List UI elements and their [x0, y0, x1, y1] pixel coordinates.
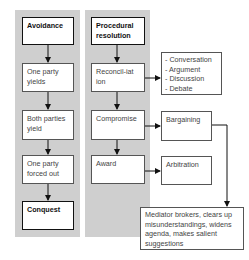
both-parties-yield-box: Both parties yield — [22, 110, 74, 140]
avoidance-header-label: Avoidance — [27, 21, 63, 30]
award-box: Award — [91, 155, 145, 184]
one-party-yields-box: One party yields — [22, 63, 74, 92]
reconciliation-box: Reconcil-iation — [91, 63, 145, 92]
bargaining-box: Bargaining — [161, 111, 212, 141]
compromise-label: Compromise — [96, 114, 137, 123]
conquest-label: Conquest — [27, 205, 60, 214]
both-parties-yield-label: Both parties yield — [27, 114, 65, 133]
arbitration-box: Arbitration — [161, 156, 212, 185]
one-party-forced-out-label: One party forced out — [27, 159, 59, 178]
procedural-resolution-header-label: Procedural resolution — [96, 21, 134, 40]
arrow-bargaining-to-mediator — [211, 125, 227, 206]
award-label: Award — [96, 159, 116, 168]
form-item: - Conversation — [165, 55, 218, 65]
bargaining-label: Bargaining — [166, 115, 200, 124]
avoidance-header-box: Avoidance — [22, 17, 74, 45]
conquest-box: Conquest — [22, 201, 74, 230]
mediator-note: Mediator brokers, clears up misunderstan… — [145, 210, 232, 248]
form-item: - Discussion — [165, 74, 218, 84]
arbitration-label: Arbitration — [166, 160, 199, 169]
one-party-forced-out-box: One party forced out — [22, 155, 74, 184]
compromise-box: Compromise — [91, 110, 145, 140]
form-item: - Debate — [165, 84, 218, 94]
procedural-resolution-header-box: Procedural resolution — [91, 17, 145, 45]
mediator-box: Mediator brokers, clears up misunderstan… — [140, 207, 244, 250]
one-party-yields-label: One party yields — [27, 67, 59, 86]
reconciliation-forms-box: - Conversation - Argument - Discussion -… — [161, 52, 222, 95]
form-item: - Argument — [165, 65, 218, 75]
reconciliation-label: Reconcil-iation — [96, 67, 134, 86]
